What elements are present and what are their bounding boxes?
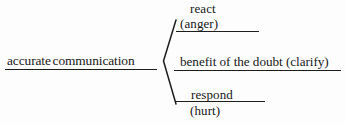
branch-2-underline	[174, 70, 341, 71]
branch-1-underline	[176, 31, 259, 32]
root-underline	[5, 69, 157, 70]
branch-3-underline	[176, 101, 265, 102]
root-node-label: accurate communication	[7, 54, 135, 67]
branch-3-label: respond	[191, 88, 233, 101]
branch-2-label: benefit of the doubt (clarify)	[180, 55, 329, 68]
branch-3-sublabel: (hurt)	[190, 104, 220, 117]
bracket-diagram: accurate communication react (anger) ben…	[0, 0, 345, 124]
branch-1-sublabel: (anger)	[180, 17, 218, 30]
branch-1-label: react	[190, 2, 216, 15]
